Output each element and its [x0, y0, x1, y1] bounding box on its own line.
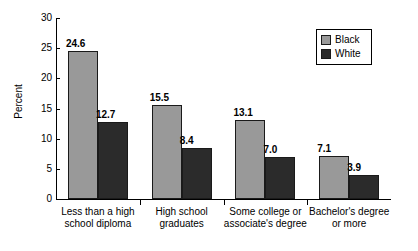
legend-item-white: White: [321, 47, 371, 61]
bar: [265, 157, 295, 199]
bar-value-label: 13.1: [233, 108, 252, 118]
legend-label-white: White: [335, 49, 361, 59]
bar: [98, 122, 128, 199]
x-category-label: Bachelor's degree or more: [301, 206, 397, 230]
y-tick-mark: [56, 169, 60, 170]
legend-item-black: Black: [321, 33, 371, 47]
x-category-label: High school graduates: [134, 206, 230, 230]
legend-swatch-black-icon: [321, 35, 331, 45]
y-tick-label: 15: [26, 104, 52, 114]
x-separator-tick: [224, 200, 225, 205]
bar: [152, 105, 182, 199]
y-tick-mark: [56, 78, 60, 79]
bar: [319, 156, 349, 199]
bar: [182, 148, 212, 199]
bar: [235, 120, 265, 199]
y-tick-mark: [56, 139, 60, 140]
y-axis-title: Percent: [13, 67, 24, 137]
bar-value-label: 24.6: [66, 39, 85, 49]
y-tick-label: 25: [26, 43, 52, 53]
x-category-label: Less than a high school diploma: [50, 206, 146, 230]
bar-value-label: 7.0: [263, 145, 277, 155]
bar-chart: Percent 051015202530 24.612.715.58.413.1…: [0, 0, 418, 251]
bar-value-label: 8.4: [180, 136, 194, 146]
y-tick-label: 5: [26, 164, 52, 174]
bar: [349, 175, 379, 199]
y-tick-mark: [56, 48, 60, 49]
y-tick-label: 0: [26, 194, 52, 204]
bar-value-label: 3.9: [347, 163, 361, 173]
x-separator-tick: [307, 200, 308, 205]
bar: [68, 51, 98, 199]
y-tick-label: 20: [26, 73, 52, 83]
x-category-label: Some college or associate's degree: [218, 206, 314, 230]
bar-value-label: 15.5: [150, 93, 169, 103]
y-tick-mark: [56, 18, 60, 19]
x-separator-tick: [140, 200, 141, 205]
legend-swatch-white-icon: [321, 49, 331, 59]
y-tick-mark: [56, 109, 60, 110]
bar-value-label: 7.1: [317, 144, 331, 154]
chart-legend: Black White: [316, 29, 372, 65]
y-tick-label: 10: [26, 134, 52, 144]
y-tick-label: 30: [26, 13, 52, 23]
legend-label-black: Black: [335, 35, 359, 45]
bar-value-label: 12.7: [96, 110, 115, 120]
